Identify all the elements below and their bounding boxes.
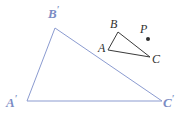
vertex-label-A: A <box>98 42 105 54</box>
vertex-label-C-prime-letter: C <box>163 95 172 110</box>
point-label-P: P <box>140 23 147 35</box>
vertex-label-A-prime-letter: A <box>6 95 15 110</box>
prime-mark-C: ′ <box>172 94 175 104</box>
prime-mark-B: ′ <box>57 5 60 15</box>
prime-mark-A: ′ <box>15 94 18 104</box>
vertex-label-B: B <box>110 18 117 30</box>
triangle-A-prime-B-prime-C-prime-shape <box>27 28 162 101</box>
vertex-label-B-prime-letter: B <box>48 6 57 21</box>
vertex-label-B-prime: B′ <box>48 6 59 20</box>
vertex-label-C: C <box>152 53 160 65</box>
vertex-label-C-prime: C′ <box>163 95 174 109</box>
geometry-figure-canvas: A′ B′ C′ A B C P <box>0 0 182 118</box>
point-P-dot <box>146 37 150 41</box>
vertex-label-A-prime: A′ <box>6 95 17 109</box>
